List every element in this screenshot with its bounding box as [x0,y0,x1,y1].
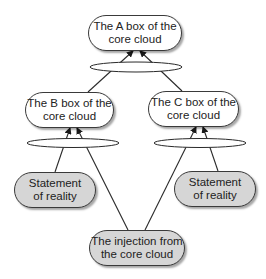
node-b-box-label: The B box of the core cloud [26,97,113,123]
node-c-box: The C box of the core cloud [148,91,239,127]
node-injection-label: The injection from the core cloud [90,235,184,261]
node-reality-left-label: Statement of reality [15,177,95,203]
node-b-box: The B box of the core cloud [25,92,114,128]
edge-reality-right-to-c [203,127,218,171]
and-ellipse-left [27,139,119,148]
and-ellipse-top [90,62,182,72]
node-a-box: The A box of the core cloud [88,15,182,51]
node-a-box-label: The A box of the core cloud [89,20,181,46]
node-reality-right-label: Statement of reality [175,176,255,202]
node-reality-left: Statement of reality [14,172,96,208]
node-injection: The injection from the core cloud [89,230,185,266]
node-c-box-label: The C box of the core cloud [149,96,238,122]
node-reality-right: Statement of reality [174,171,256,207]
edge-reality-left-to-b [55,128,70,172]
and-ellipse-right [154,139,246,148]
